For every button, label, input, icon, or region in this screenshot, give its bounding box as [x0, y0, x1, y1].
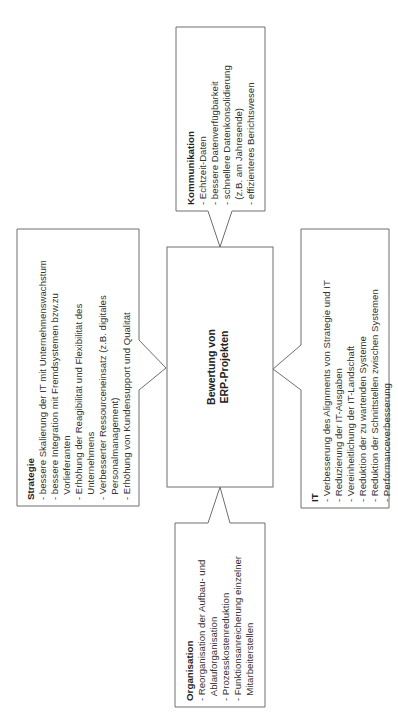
strategie-line-5: Unternehmens — [85, 432, 96, 500]
strategie-line-6: - Verbesserter Ressourceneinsatz (z.B. d… — [97, 295, 108, 500]
organisation-line-5: Mitarbeiterstellen — [244, 623, 255, 701]
strategie-line-7: Personalmanagement) — [109, 398, 120, 500]
strategie-line-2: - bessere Integration mit Fremdsystemen … — [49, 293, 60, 500]
strategie-line-4: - Erhöhung der Reagibilität und Flexibil… — [73, 304, 84, 500]
organisation-title: Organisation — [184, 641, 195, 701]
kommunikation-title: Kommunikation — [185, 131, 196, 205]
center-title-line-2: ERP-Projekten — [218, 331, 230, 404]
kommunikation-line-5: - effizienteres Berichtswesen — [245, 83, 256, 205]
it-line-1: - Verbesserung des Alignments von Strate… — [321, 280, 332, 502]
it-line-5: - Reduktion der Schnittstellen zwischen … — [369, 289, 380, 502]
organisation-line-1: - Reorganisation der Aufbau- und — [196, 560, 207, 701]
callout-strategie: Strategie - bessere Skalierung der IT mi… — [17, 229, 166, 506]
center-box: Bewertung von ERP-Projekten — [167, 247, 273, 487]
organisation-line-4: - Funktionsanreicherung einzelner — [232, 555, 243, 701]
strategie-line-8: - Erhöhung von Kundensupport und Qualitä… — [121, 312, 132, 500]
callout-organisation: Organisation - Reorganisation der Aufbau… — [175, 487, 265, 707]
center-title-line-1: Bewertung von — [205, 329, 217, 405]
strategie-line-3: Vorlieferanten — [61, 435, 72, 500]
erp-evaluation-diagram: Kommunikation - Echtzeit-Daten - bessere… — [0, 0, 398, 727]
it-title: IT — [309, 493, 320, 502]
it-line-3: - Vereinheitlichung der IT-Landschaft — [345, 345, 356, 502]
callout-it: IT - Verbesserung des Alignments von Str… — [273, 229, 392, 508]
kommunikation-line-2: - bessere Datenverfügbarkeit — [209, 81, 220, 205]
it-line-4: - Reduktion der zu wartenden Systeme — [357, 336, 368, 502]
organisation-line-3: - Prozesskostenreduktion — [220, 593, 231, 701]
organisation-line-2: Ablauforganisation — [208, 617, 219, 701]
it-line-6: - Performanceverbesserung — [381, 383, 392, 502]
strategie-line-1: - bessere Skalierung der IT mit Unterneh… — [37, 260, 48, 500]
strategie-title: Strategie — [25, 458, 36, 500]
kommunikation-line-3: - schnellere Datenkonsolidierung — [221, 65, 232, 205]
callout-kommunikation: Kommunikation - Echtzeit-Daten - bessere… — [176, 27, 265, 247]
it-line-2: - Reduzierung der IT-Ausgaben — [333, 368, 344, 502]
kommunikation-line-1: - Echtzeit-Daten — [197, 136, 208, 205]
kommunikation-line-4: (z.B. am Jahresende) — [233, 108, 244, 205]
